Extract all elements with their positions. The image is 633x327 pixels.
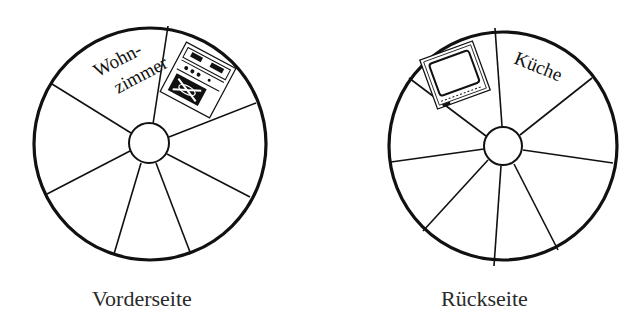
spoke bbox=[514, 164, 558, 250]
spoke bbox=[47, 151, 130, 194]
front-wheel: Wohn- zimmer bbox=[34, 26, 266, 260]
spoke bbox=[495, 28, 502, 126]
label-kueche: Küche bbox=[512, 47, 566, 85]
back-caption: Rückseite bbox=[441, 286, 528, 312]
front-wheel-room-label: Wohn- zimmer bbox=[90, 30, 172, 102]
spoke bbox=[156, 163, 190, 252]
spoke bbox=[523, 150, 613, 163]
spoke bbox=[391, 149, 484, 162]
spoke bbox=[520, 78, 592, 135]
tv-icon bbox=[420, 41, 490, 109]
spoke bbox=[167, 154, 250, 197]
spoke bbox=[494, 166, 501, 266]
diagram-canvas: Wohn- zimmer bbox=[0, 0, 633, 327]
back-wheel-hub bbox=[484, 127, 522, 165]
spoke bbox=[423, 160, 488, 231]
back-wheel: Küche bbox=[389, 28, 617, 266]
back-wheel-room-label: Küche bbox=[512, 47, 566, 85]
spoke bbox=[114, 163, 141, 254]
front-caption: Vorderseite bbox=[92, 286, 192, 312]
front-wheel-hub bbox=[129, 123, 169, 163]
